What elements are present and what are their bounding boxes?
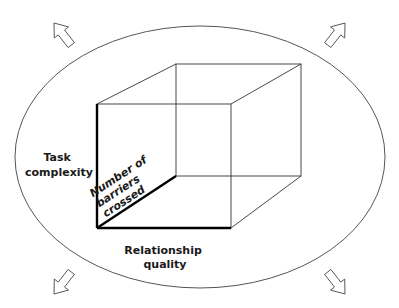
cube-edge-top-left	[97, 64, 176, 104]
label-task-complexity: Task complexity	[25, 151, 93, 179]
cube-edge-bottom-right	[231, 176, 301, 228]
arrow-down-left-icon	[47, 266, 78, 299]
diagram-canvas: Task complexity Relationship quality Num…	[0, 0, 399, 308]
arrow-down-right-icon	[321, 266, 352, 299]
label-relationship-quality: Relationship quality	[124, 244, 205, 271]
arrow-up-right-icon	[321, 17, 352, 50]
cube-edge-top-right	[231, 64, 301, 104]
cube-back-face	[176, 64, 301, 176]
arrow-up-left-icon	[47, 17, 78, 50]
